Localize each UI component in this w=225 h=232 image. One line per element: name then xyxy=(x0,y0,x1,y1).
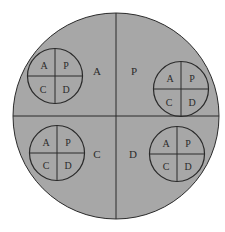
inner-label-act: A xyxy=(42,137,50,148)
outer-label-act: A xyxy=(93,65,101,77)
inner-label-do: D xyxy=(62,84,69,95)
inner-cycle-bottom-left: A P C D xyxy=(30,126,85,181)
inner-label-plan: P xyxy=(185,138,191,149)
inner-cycle-bottom-right: A P C D xyxy=(150,127,205,182)
inner-label-do: D xyxy=(188,97,195,108)
inner-label-check: C xyxy=(43,160,50,171)
inner-label-do: D xyxy=(64,160,71,171)
inner-label-act: A xyxy=(162,138,170,149)
inner-label-plan: P xyxy=(65,137,71,148)
inner-label-check: C xyxy=(166,97,173,108)
inner-cycle-top-left: A P C D xyxy=(28,49,83,104)
inner-label-do: D xyxy=(184,161,191,172)
outer-label-do: D xyxy=(129,148,137,160)
inner-label-check: C xyxy=(40,84,47,95)
inner-label-check: C xyxy=(163,161,170,172)
inner-label-act: A xyxy=(166,73,174,84)
pdca-diagram: A P C D A P C D A P C D A P C D A P C xyxy=(0,0,225,232)
inner-cycle-top-right: A P C D xyxy=(154,62,209,117)
inner-label-plan: P xyxy=(189,73,195,84)
outer-label-plan: P xyxy=(131,65,137,77)
outer-label-check: C xyxy=(93,148,100,160)
inner-label-plan: P xyxy=(63,60,69,71)
inner-label-act: A xyxy=(40,60,48,71)
